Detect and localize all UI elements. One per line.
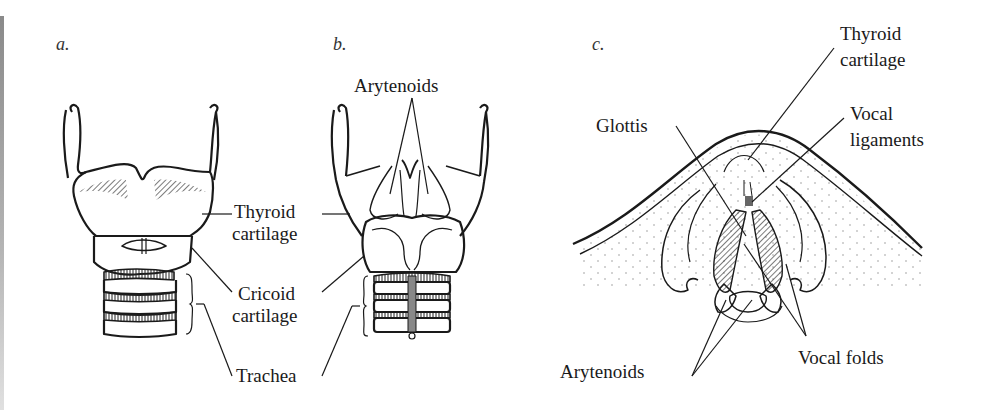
panel-a-letter: a. [56, 34, 70, 55]
panel-b-leaders [322, 98, 428, 376]
label-arytenoids-b: Arytenoids [354, 76, 438, 95]
label-vocal-folds: Vocal folds [798, 348, 884, 367]
label-c-thyroid-line1: Thyroid [840, 24, 901, 43]
label-vocal-ligaments-line1: Vocal [850, 104, 893, 123]
panel-b-letter: b. [333, 34, 347, 55]
label-trachea: Trachea [236, 366, 297, 385]
label-cricoid-cartilage-line1: Cricoid [238, 284, 295, 303]
panel-b-larynx [332, 105, 488, 339]
panel-a-larynx [64, 105, 218, 337]
label-c-arytenoids: Arytenoids [560, 362, 644, 381]
label-c-thyroid-line2: cartilage [840, 50, 905, 69]
label-thyroid-cartilage-line1: Thyroid [234, 202, 295, 221]
label-glottis: Glottis [596, 116, 648, 135]
panel-c-glottis [573, 131, 922, 322]
label-vocal-ligaments-line2: ligaments [850, 130, 924, 149]
label-cricoid-cartilage-line2: cartilage [232, 306, 297, 325]
label-thyroid-cartilage-line2: cartilage [232, 224, 297, 243]
panel-c-letter: c. [592, 34, 605, 55]
